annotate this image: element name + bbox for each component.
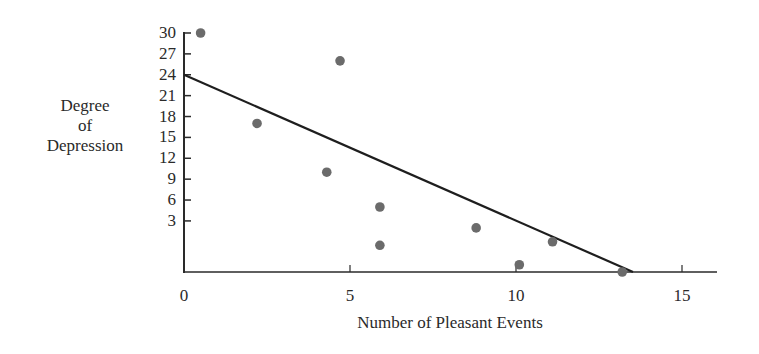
y-tick-label: 15 bbox=[146, 128, 176, 145]
x-tick-label: 5 bbox=[330, 287, 370, 304]
x-tick-label: 0 bbox=[164, 287, 204, 304]
y-tick-label: 21 bbox=[146, 87, 176, 104]
y-tick-label: 30 bbox=[146, 24, 176, 41]
data-point bbox=[252, 119, 262, 129]
y-axis-label-line-2: of bbox=[30, 116, 140, 136]
data-point bbox=[375, 240, 385, 250]
y-axis-label: Degree of Depression bbox=[30, 96, 140, 156]
data-point bbox=[375, 202, 385, 212]
y-tick-label: 12 bbox=[146, 149, 176, 166]
x-axis-label: Number of Pleasant Events bbox=[300, 313, 600, 333]
data-point bbox=[515, 260, 525, 270]
data-point bbox=[335, 56, 345, 66]
data-point bbox=[322, 167, 332, 177]
x-tick-label: 10 bbox=[496, 287, 536, 304]
y-tick-label: 27 bbox=[146, 45, 176, 62]
data-point bbox=[471, 223, 481, 233]
y-tick-label: 3 bbox=[146, 212, 176, 229]
regression-line bbox=[184, 75, 633, 272]
y-tick-label: 6 bbox=[146, 191, 176, 208]
data-point bbox=[548, 237, 558, 247]
y-axis-label-line-1: Degree bbox=[30, 96, 140, 116]
y-axis-label-line-3: Depression bbox=[30, 136, 140, 156]
data-point bbox=[196, 28, 206, 38]
scatter-plot bbox=[0, 0, 759, 354]
y-tick-label: 9 bbox=[146, 170, 176, 187]
y-tick-label: 18 bbox=[146, 108, 176, 125]
y-tick-label: 24 bbox=[146, 66, 176, 83]
x-tick-label: 15 bbox=[662, 287, 702, 304]
data-point bbox=[617, 267, 627, 277]
